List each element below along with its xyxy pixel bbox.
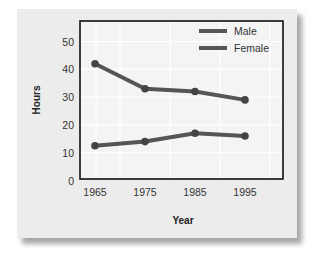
data-point-marker: [91, 142, 99, 150]
x-tick-label: 1965: [83, 186, 107, 198]
x-tick-label: 1995: [233, 186, 257, 198]
x-axis-ticks: 1965197519851995: [83, 186, 257, 198]
x-tick-label: 1975: [133, 186, 157, 198]
legend-label: Female: [234, 42, 269, 54]
data-point-marker: [191, 129, 199, 137]
y-tick-label: 30: [62, 91, 74, 103]
data-point-marker: [241, 96, 249, 104]
data-point-marker: [141, 138, 149, 146]
data-point-marker: [241, 132, 249, 140]
y-tick-label: 40: [62, 63, 74, 75]
legend-label: Male: [234, 25, 257, 37]
x-tick-label: 1985: [183, 186, 207, 198]
y-tick-label: 10: [62, 147, 74, 159]
y-axis-ticks: 01020304050: [62, 36, 74, 187]
data-point-marker: [191, 88, 199, 96]
line-chart: 01020304050 1965197519851995 Hours Year …: [0, 0, 318, 260]
y-tick-label: 50: [62, 36, 74, 48]
data-point-marker: [141, 85, 149, 93]
y-tick-label: 20: [62, 119, 74, 131]
data-point-marker: [91, 60, 99, 68]
y-tick-label: 0: [68, 175, 74, 187]
y-axis-label: Hours: [31, 85, 42, 114]
x-axis-label: Year: [172, 215, 193, 226]
